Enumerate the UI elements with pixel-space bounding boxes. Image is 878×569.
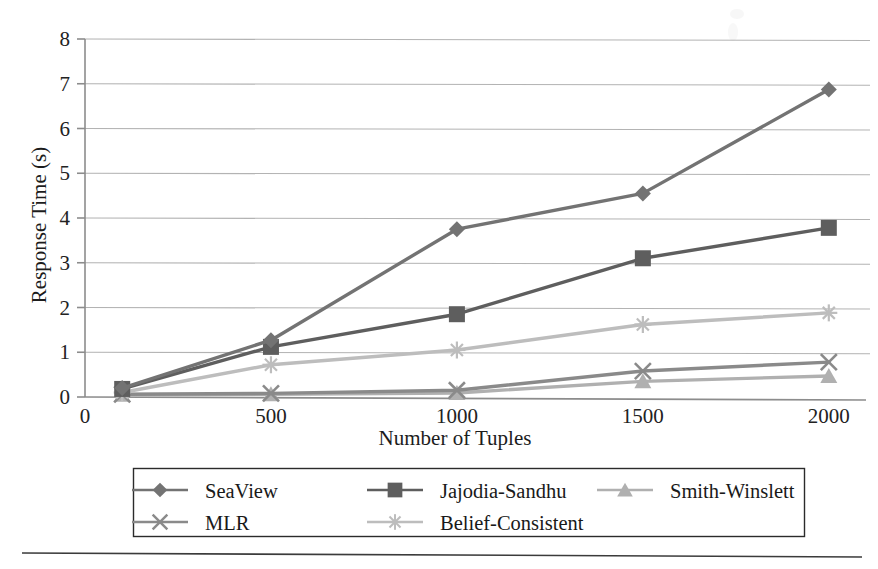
x-axis-ticks: 0500100015002000 — [80, 404, 850, 428]
gridline — [85, 39, 870, 41]
legend-item-smith-winslett[interactable]: Smith-Winslett — [597, 480, 795, 502]
square-marker-icon — [388, 483, 403, 498]
square-marker-icon — [635, 250, 651, 266]
y-tick-label: 5 — [60, 161, 71, 185]
gridline — [85, 218, 870, 220]
y-tick-label: 6 — [60, 117, 71, 141]
gridline — [85, 352, 870, 354]
diamond-marker-icon — [449, 221, 465, 237]
footer-rule — [22, 553, 862, 557]
legend-item-mlr[interactable]: MLR — [132, 512, 250, 534]
square-marker-icon — [449, 306, 465, 322]
x-tick-label: 0 — [80, 404, 91, 428]
x-tick-label: 2000 — [808, 404, 850, 428]
legend-item-label: Smith-Winslett — [670, 480, 795, 502]
y-tick-label: 4 — [60, 206, 71, 230]
diamond-marker-icon — [635, 185, 651, 201]
asterisk-marker-icon — [820, 304, 837, 321]
y-tick-label: 7 — [60, 72, 71, 96]
x-axis-line — [85, 397, 866, 400]
legend-item-label: MLR — [205, 512, 250, 534]
gridline — [85, 263, 870, 265]
series-line — [122, 90, 829, 388]
scan-artifact — [728, 9, 744, 41]
response-time-line-chart: 012345678 0500100015002000 Response Time… — [0, 0, 878, 569]
legend-item-label: SeaView — [205, 480, 278, 502]
y-tick-label: 1 — [60, 340, 71, 364]
chart-figure: 012345678 0500100015002000 Response Time… — [0, 0, 878, 569]
y-tick-label: 0 — [60, 385, 71, 409]
y-tick-label: 3 — [60, 251, 71, 275]
x-tick-label: 1000 — [436, 404, 478, 428]
x-tick-label: 500 — [255, 404, 287, 428]
asterisk-marker-icon — [634, 316, 651, 333]
legend-item-label: Jajodia-Sandhu — [440, 480, 566, 503]
asterisk-marker-icon — [448, 342, 465, 359]
legend-item-belief-consistent[interactable]: Belief-Consistent — [367, 512, 584, 534]
y-axis-title: Response Time (s) — [27, 147, 51, 303]
gridline — [85, 84, 870, 86]
legend-item-jajodia-sandhu[interactable]: Jajodia-Sandhu — [367, 480, 566, 503]
y-axis-ticks: 012345678 — [60, 27, 86, 409]
diamond-marker-icon — [153, 483, 168, 498]
gridline — [85, 173, 870, 175]
series-line — [122, 376, 829, 395]
square-marker-icon — [821, 220, 837, 236]
gridline — [85, 129, 870, 131]
y-tick-label: 8 — [60, 27, 71, 51]
asterisk-marker-icon — [262, 356, 279, 373]
asterisk-marker-icon — [387, 514, 403, 530]
x-axis-title: Number of Tuples — [379, 426, 532, 450]
x-tick-label: 1500 — [622, 404, 664, 428]
legend: SeaViewJajodia-SandhuSmith-WinslettMLRBe… — [132, 480, 795, 534]
diamond-marker-icon — [821, 82, 837, 98]
legend-item-label: Belief-Consistent — [440, 512, 584, 534]
legend-item-seaview[interactable]: SeaView — [132, 480, 278, 502]
y-tick-label: 2 — [60, 296, 71, 320]
